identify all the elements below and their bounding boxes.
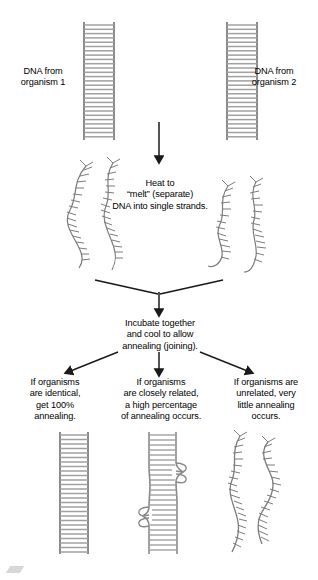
arrow-branch-icon-results: [68, 352, 250, 373]
dna-ladder-icon-result-closely-related: [139, 432, 186, 554]
result-caption-identical: If organisms are identical, get 100% ann…: [14, 377, 96, 423]
result-caption-unrelated: If organisms are unrelated, very little …: [222, 377, 310, 423]
dna-single-strand-icon-1: [67, 160, 93, 268]
arrow-branch-icon-converge: [95, 280, 223, 313]
dna-single-strand-icon-4: [244, 176, 266, 272]
dna-single-strand-icon-result-unrelated-right: [258, 436, 281, 544]
label-dna-organism-2: DNA from organism 2: [236, 66, 312, 89]
step-caption-anneal: Incubate together and cool to allow anne…: [92, 318, 228, 352]
result-caption-closely-related: If organisms are closely related, a high…: [109, 377, 213, 423]
dna-single-strand-icon-2: [101, 157, 123, 270]
label-dna-organism-1: DNA from organism 1: [6, 66, 80, 89]
dna-hybridization-diagram: DNA from organism 1 DNA from organism 2 …: [0, 0, 318, 580]
step-caption-melt: Heat to “melt” (separate) DNA into singl…: [92, 178, 228, 212]
dna-single-strand-icon-result-unrelated-left: [228, 430, 247, 552]
dna-ladder-icon-organism1: [83, 22, 115, 140]
dna-ladder-icon-result-identical: [59, 432, 89, 554]
